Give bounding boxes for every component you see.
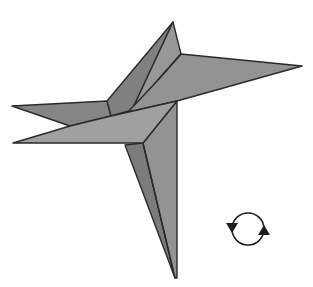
turn-over-icon: [226, 213, 270, 245]
origami-diagram: [0, 0, 313, 287]
origami-model: [12, 22, 302, 278]
